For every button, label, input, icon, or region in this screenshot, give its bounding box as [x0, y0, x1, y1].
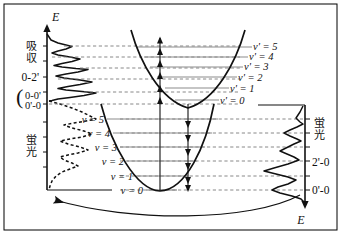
fluorescence-title-left-char2: 光: [26, 145, 37, 159]
level-label-v-5: v = 5: [82, 114, 104, 125]
band-label-2prime-0: 2'-0: [312, 156, 330, 168]
bracket-paren: (: [16, 84, 23, 109]
left-axis-label: E: [51, 10, 60, 24]
fluorescence-title-right-char1: 蛍: [314, 116, 325, 130]
band-label-0prime-0: 0'-0: [25, 100, 41, 111]
level-label-vprime-1: v' = 1: [230, 83, 255, 94]
level-label-v-0: v = 0: [121, 185, 144, 196]
level-label-vprime-2: v' = 2: [238, 72, 263, 83]
figure-border: [4, 4, 337, 230]
absorption-title-char2: 収: [26, 52, 37, 65]
level-label-v-1: v = 1: [111, 171, 133, 182]
fluorescence-title-right-char2: 光: [314, 128, 325, 142]
figure-canvas: E 吸 収 0-2' ( 0-0' 0'-0 蛍 光: [0, 0, 341, 234]
level-label-v-2: v = 2: [102, 156, 125, 167]
level-label-v-3: v = 3: [95, 142, 117, 153]
energy-diagram-svg: E 吸 収 0-2' ( 0-0' 0'-0 蛍 光: [0, 0, 341, 234]
level-label-v-4: v = 4: [88, 128, 111, 139]
level-label-vprime-3: v' = 3: [244, 61, 269, 72]
fluorescence-title-left-char1: 蛍: [26, 133, 37, 147]
level-label-vprime-0: v' = 0: [220, 95, 245, 106]
band-label-0-2prime: 0-2': [22, 71, 39, 83]
band-label-0prime-0-right: 0'-0: [312, 184, 330, 196]
right-axis-label: E: [296, 213, 305, 227]
